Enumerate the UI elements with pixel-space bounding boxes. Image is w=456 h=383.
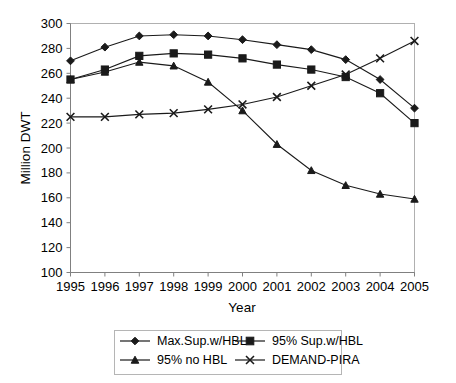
- legend-item-1[interactable]: Max.Sup.w/HBL: [120, 334, 247, 348]
- x-tick-label: 2001: [262, 279, 291, 294]
- series-1-diamond-marker: [342, 56, 350, 64]
- series-4-x-marker: [376, 54, 384, 62]
- legend-1-diamond-marker: [131, 337, 139, 345]
- series-1-diamond-marker: [273, 41, 281, 49]
- series-2-square-marker: [308, 66, 315, 73]
- legend-item-4[interactable]: DEMAND-PIRA: [235, 353, 360, 367]
- y-tick-label: 140: [41, 215, 63, 230]
- x-tick-label: 1998: [159, 279, 188, 294]
- y-tick-label: 200: [41, 141, 63, 156]
- series-3: [67, 58, 418, 202]
- series-2-square-marker: [239, 55, 246, 62]
- series-1-diamond-marker: [239, 36, 247, 44]
- y-tick-label: 300: [41, 16, 63, 31]
- legend-label: DEMAND-PIRA: [272, 353, 360, 367]
- legend-label: Max.Sup.w/HBL: [157, 334, 247, 348]
- x-tick-label: 1997: [125, 279, 154, 294]
- series-1-diamond-marker: [67, 57, 75, 65]
- series-2-square-marker: [377, 90, 384, 97]
- series-2-square-marker: [170, 50, 177, 57]
- legend-2-square-marker: [246, 337, 254, 345]
- x-tick-label: 1996: [90, 279, 119, 294]
- legend-label: 95% Sup.w/HBL: [272, 334, 363, 348]
- chart-container: 100120140160180200220240260280300 199519…: [0, 0, 456, 383]
- series-1-diamond-marker: [170, 31, 178, 39]
- y-axis-tick-labels: 100120140160180200220240260280300: [41, 16, 63, 280]
- chart-legend: Max.Sup.w/HBL95% Sup.w/HBL95% no HBLDEMA…: [115, 331, 364, 375]
- series-4-x-marker: [307, 82, 315, 90]
- x-axis-ticks: [71, 273, 415, 277]
- series-1-diamond-marker: [204, 32, 212, 40]
- x-tick-label: 1999: [194, 279, 223, 294]
- legend-label: 95% no HBL: [157, 353, 227, 367]
- line-chart: 100120140160180200220240260280300 199519…: [0, 0, 456, 383]
- y-tick-label: 240: [41, 91, 63, 106]
- x-tick-label: 1995: [56, 279, 85, 294]
- series-2: [67, 50, 418, 127]
- x-axis-title: Year: [228, 300, 256, 315]
- y-tick-label: 260: [41, 66, 63, 81]
- series-2-square-marker: [411, 120, 418, 127]
- series-line: [71, 35, 415, 108]
- x-tick-label: 2003: [331, 279, 360, 294]
- y-tick-label: 120: [41, 240, 63, 255]
- x-tick-label: 2004: [366, 279, 395, 294]
- series-2-square-marker: [205, 51, 212, 58]
- series-1-diamond-marker: [307, 46, 315, 54]
- x-axis-tick-labels: 1995199619971998199920002001200220032004…: [56, 279, 429, 294]
- y-tick-label: 220: [41, 116, 63, 131]
- y-tick-label: 160: [41, 190, 63, 205]
- series-1-diamond-marker: [101, 43, 109, 51]
- x-tick-label: 2005: [400, 279, 429, 294]
- legend-item-2[interactable]: 95% Sup.w/HBL: [235, 334, 363, 348]
- legend-item-3[interactable]: 95% no HBL: [120, 353, 227, 367]
- y-axis-title: Million DWT: [18, 112, 33, 185]
- series-3-triangle-marker: [342, 182, 349, 189]
- series-line: [71, 62, 415, 199]
- series-1-diamond-marker: [135, 32, 143, 40]
- x-tick-label: 2002: [297, 279, 326, 294]
- series-4-x-marker: [273, 93, 281, 101]
- series-1: [67, 31, 419, 112]
- y-tick-label: 180: [41, 165, 63, 180]
- series-layer: [67, 31, 419, 202]
- series-2-square-marker: [273, 61, 280, 68]
- y-tick-label: 280: [41, 41, 63, 56]
- series-3-triangle-marker: [204, 78, 211, 85]
- series-3-triangle-marker: [308, 167, 315, 174]
- x-tick-label: 2000: [228, 279, 257, 294]
